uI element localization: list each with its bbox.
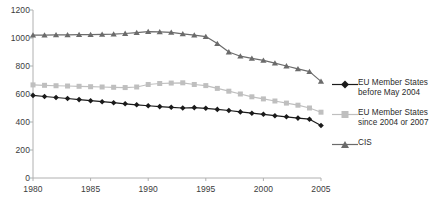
- x-axis-tick-label: 1985: [71, 184, 111, 194]
- legend-label: CIS: [358, 138, 372, 148]
- y-axis-tick-label: 600: [0, 89, 30, 99]
- x-axis-tick-label: 2000: [243, 184, 283, 194]
- legend-key-square-icon: [332, 109, 358, 120]
- legend-item-eu-before-2004: EU Member States before May 2004: [332, 78, 438, 97]
- legend-key-diamond-icon: [332, 79, 358, 90]
- legend-label: EU Member States before May 2004: [358, 78, 428, 97]
- legend-label: EU Member States since 2004 or 2007: [358, 108, 429, 127]
- x-axis-tick-label: 2005: [301, 184, 341, 194]
- legend-item-cis: CIS: [332, 138, 438, 150]
- y-axis-tick-label: 800: [0, 61, 30, 71]
- x-axis-tick-label: 1990: [128, 184, 168, 194]
- y-axis-tick-label: 1200: [0, 5, 30, 15]
- legend-item-eu-since-2004-2007: EU Member States since 2004 or 2007: [332, 108, 438, 127]
- x-axis-tick-label: 1995: [186, 184, 226, 194]
- y-axis-tick-label: 200: [0, 145, 30, 155]
- legend-key-triangle-icon: [332, 139, 358, 150]
- line-chart: 020040060080010001200 198019851990199520…: [0, 0, 438, 207]
- x-axis-tick-label: 1980: [13, 184, 53, 194]
- chart-legend: EU Member States before May 2004 EU Memb…: [332, 78, 438, 161]
- y-axis-tick-label: 0: [0, 173, 30, 183]
- y-axis-tick-label: 1000: [0, 33, 30, 43]
- y-axis-tick-label: 400: [0, 117, 30, 127]
